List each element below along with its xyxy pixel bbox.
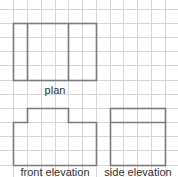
plan-label: plan: [45, 85, 66, 96]
side-elevation-label: side elevation: [104, 167, 171, 177]
front-elevation-label: front elevation: [20, 167, 89, 177]
diagram-canvas: [0, 0, 178, 177]
